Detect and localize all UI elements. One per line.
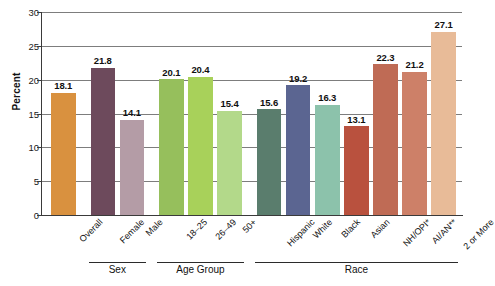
- bar-value-label: 21.8: [94, 55, 112, 66]
- bar-series: 18.121.814.120.120.415.415.619.216.313.1…: [41, 12, 462, 215]
- bar-value-label: 13.1: [347, 114, 365, 125]
- y-tick-mark: [37, 46, 42, 47]
- bar-value-label: 27.1: [435, 19, 453, 30]
- bar-column[interactable]: 20.4: [188, 12, 213, 215]
- y-axis-ticks: 051015202530: [0, 0, 39, 286]
- bar[interactable]: [402, 72, 427, 215]
- y-tick-label: 30: [5, 7, 39, 18]
- group-brackets: SexAge GroupRace: [41, 262, 462, 286]
- x-tick-label: Asian: [369, 217, 392, 240]
- x-tick-label: 18–25: [185, 217, 210, 242]
- bar-column[interactable]: 18.1: [51, 12, 76, 215]
- bar-value-label: 18.1: [54, 80, 72, 91]
- bar-column[interactable]: 21.8: [91, 12, 116, 215]
- bar[interactable]: [51, 93, 76, 215]
- bar-column[interactable]: 22.3: [373, 12, 398, 215]
- group-label: Sex: [89, 264, 147, 275]
- bar-value-label: 21.2: [406, 59, 424, 70]
- bar-value-label: 20.1: [162, 67, 180, 78]
- bar-value-label: 22.3: [376, 52, 394, 63]
- bar-column[interactable]: 20.1: [159, 12, 184, 215]
- bar[interactable]: [120, 120, 145, 215]
- bar[interactable]: [315, 105, 340, 215]
- x-tick-label: NH/OPI*: [402, 217, 433, 248]
- y-tick-mark: [37, 181, 42, 182]
- bar[interactable]: [286, 85, 311, 215]
- x-axis-line: [41, 215, 463, 216]
- bar[interactable]: [431, 32, 456, 215]
- y-tick-mark: [37, 12, 42, 13]
- bar[interactable]: [188, 77, 213, 215]
- bar-value-label: 15.6: [260, 97, 278, 108]
- group-bracket-rule: [157, 262, 244, 263]
- y-tick-mark: [37, 215, 42, 216]
- x-tick-label: Black: [340, 217, 363, 240]
- bar-value-label: 14.1: [123, 107, 141, 118]
- y-tick-label: 0: [5, 210, 39, 221]
- x-tick-label: 2 or More: [461, 217, 495, 251]
- bar-value-label: 16.3: [318, 92, 336, 103]
- group-bracket-rule: [89, 262, 147, 263]
- x-tick-label: 50+: [240, 217, 258, 235]
- group-label: Age Group: [157, 264, 244, 275]
- y-tick-mark: [37, 147, 42, 148]
- y-tick-mark: [37, 80, 42, 81]
- bar[interactable]: [373, 64, 398, 215]
- y-tick-mark: [37, 114, 42, 115]
- bar[interactable]: [344, 126, 369, 215]
- x-tick-label: Female: [118, 217, 146, 245]
- x-tick-label: 26–49: [214, 217, 239, 242]
- bar-column[interactable]: 27.1: [431, 12, 456, 215]
- x-axis-labels: OverallFemaleMale18–2526–4950+HispanicWh…: [41, 217, 462, 261]
- bar-column[interactable]: 15.4: [217, 12, 242, 215]
- bar[interactable]: [91, 68, 116, 216]
- y-tick-label: 5: [5, 176, 39, 187]
- x-tick-label: AI/AN**: [429, 217, 458, 246]
- bar-value-label: 19.2: [289, 73, 307, 84]
- x-tick-label: Male: [144, 217, 165, 238]
- bar-column[interactable]: 16.3: [315, 12, 340, 215]
- bar-column[interactable]: 13.1: [344, 12, 369, 215]
- y-tick-label: 15: [5, 108, 39, 119]
- bar[interactable]: [159, 79, 184, 215]
- y-tick-label: 25: [5, 40, 39, 51]
- bar-value-label: 20.4: [191, 64, 209, 75]
- group-bracket-rule: [255, 262, 458, 263]
- bar-column[interactable]: 15.6: [257, 12, 282, 215]
- bar-column[interactable]: 21.2: [402, 12, 427, 215]
- bar-value-label: 15.4: [221, 98, 239, 109]
- x-tick-label: Overall: [78, 217, 105, 244]
- bar[interactable]: [217, 111, 242, 215]
- y-tick-label: 10: [5, 142, 39, 153]
- bar[interactable]: [257, 109, 282, 215]
- bar-column[interactable]: 19.2: [286, 12, 311, 215]
- plot-area: 18.121.814.120.120.415.415.619.216.313.1…: [41, 12, 462, 215]
- bar-column[interactable]: 14.1: [120, 12, 145, 215]
- group-label: Race: [255, 264, 458, 275]
- y-tick-label: 20: [5, 74, 39, 85]
